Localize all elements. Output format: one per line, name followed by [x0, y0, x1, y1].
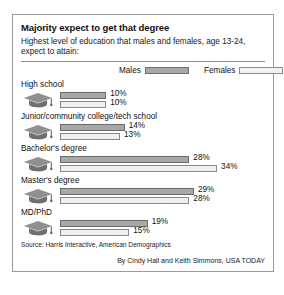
infographic-frame: Majority expect to get that degree Highe…	[12, 14, 274, 272]
bar-females	[60, 229, 129, 236]
bar-value-males: 29%	[198, 185, 214, 194]
group-label: Bachelor's degree	[21, 143, 265, 154]
group-bars-row: 28%34%	[21, 154, 265, 174]
bar-line-males: 14%	[60, 124, 265, 131]
group-bars-row: 19%15%	[21, 218, 265, 238]
group-bars-row: 29%28%	[21, 186, 265, 206]
group-label: MD/PhD	[21, 207, 265, 218]
bar-males	[60, 92, 106, 99]
bar-females	[60, 197, 189, 204]
bar-line-females: 13%	[60, 133, 265, 140]
chart-group: Junior/community college/tech school 14%…	[21, 111, 265, 142]
graduation-cap-icon	[23, 155, 53, 173]
graduation-cap-icon	[23, 123, 53, 141]
chart-group: Bachelor's degree 28%34%	[21, 143, 265, 174]
bar-females	[60, 165, 217, 172]
bar-females	[60, 133, 120, 140]
bar-value-females: 15%	[133, 226, 149, 235]
chart-groups: High school 10%10%Junior/community colle…	[21, 79, 265, 238]
bar-males	[60, 188, 194, 195]
legend-swatch-males	[145, 67, 189, 74]
bar-value-males: 14%	[129, 121, 145, 130]
bar-pair: 14%13%	[60, 124, 265, 142]
source-note: Source: Harris Interactive, American Dem…	[21, 241, 265, 249]
bar-females	[60, 101, 106, 108]
bar-males	[60, 124, 125, 131]
chart-subtitle: Highest level of education that males an…	[21, 37, 265, 58]
bar-pair: 10%10%	[60, 92, 265, 110]
group-label: High school	[21, 79, 265, 90]
group-bars-row: 10%10%	[21, 90, 265, 110]
bar-value-females: 28%	[193, 194, 209, 203]
legend-item-males: Males	[119, 66, 189, 75]
chart-group: MD/PhD 19%15%	[21, 207, 265, 238]
legend-item-females: Females	[204, 66, 283, 75]
group-label: Junior/community college/tech school	[21, 111, 265, 122]
bar-value-males: 10%	[110, 89, 126, 98]
graduation-cap-icon	[23, 91, 53, 109]
group-bars-row: 14%13%	[21, 122, 265, 142]
bar-pair: 19%15%	[60, 220, 265, 238]
bar-line-males: 29%	[60, 188, 265, 195]
chart-legend: Males Females	[21, 66, 265, 78]
bar-value-females: 34%	[221, 162, 237, 171]
credit-note: By Cindy Hall and Keith Simmons, USA TOD…	[21, 256, 265, 265]
group-label: Master's degree	[21, 175, 265, 186]
bar-value-females: 13%	[124, 130, 140, 139]
legend-swatch-females	[239, 67, 283, 74]
graduation-cap-icon	[23, 187, 53, 205]
bar-value-males: 19%	[152, 217, 168, 226]
bar-value-males: 28%	[193, 153, 209, 162]
chart-group: High school 10%10%	[21, 79, 265, 110]
bar-pair: 29%28%	[60, 188, 265, 206]
bar-line-females: 15%	[60, 229, 265, 236]
bar-line-males: 19%	[60, 220, 265, 227]
chart-group: Master's degree 29%28%	[21, 175, 265, 206]
bar-line-males: 10%	[60, 92, 265, 99]
bar-pair: 28%34%	[60, 156, 265, 174]
legend-label-females: Females	[204, 66, 235, 75]
graduation-cap-icon	[23, 219, 53, 237]
bar-line-females: 28%	[60, 197, 265, 204]
bar-line-females: 10%	[60, 101, 265, 108]
chart-title: Majority expect to get that degree	[21, 22, 265, 34]
bar-line-females: 34%	[60, 165, 265, 172]
bar-males	[60, 156, 189, 163]
legend-label-males: Males	[119, 66, 141, 75]
title-divider	[21, 61, 265, 62]
bar-value-females: 10%	[110, 98, 126, 107]
